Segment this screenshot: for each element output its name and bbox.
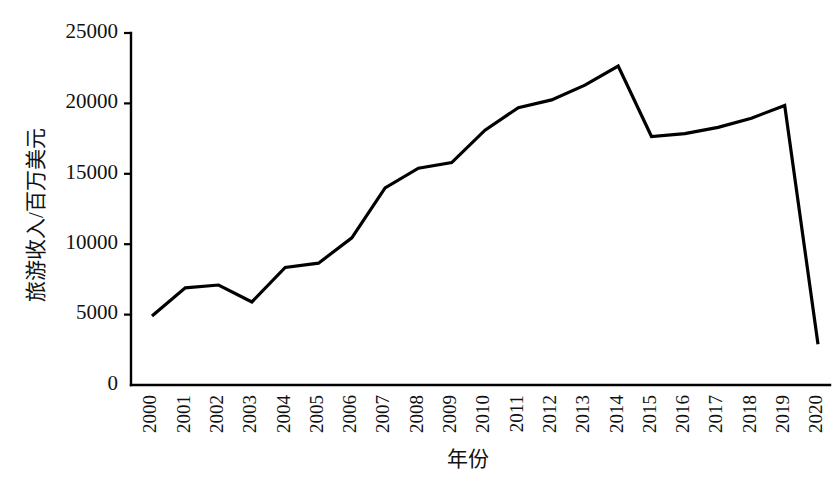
x-axis-tick-label: 2008 bbox=[406, 395, 427, 433]
chart-container: 0500010000150002000025000 20002001200220… bbox=[0, 0, 839, 494]
x-axis-tick-label: 2003 bbox=[239, 395, 260, 433]
x-axis-tick-label: 2001 bbox=[173, 395, 194, 433]
x-axis-tick-label: 2012 bbox=[539, 395, 560, 433]
y-axis-tick-label: 5000 bbox=[76, 300, 118, 324]
x-axis-tick-label: 2007 bbox=[372, 395, 393, 433]
x-axis-tick-label: 2006 bbox=[339, 395, 360, 433]
x-axis-tick-label: 2020 bbox=[805, 395, 826, 433]
y-axis-tick-label: 0 bbox=[108, 371, 119, 395]
x-axis-tick-label: 2010 bbox=[472, 395, 493, 433]
x-axis-tick-label: 2017 bbox=[705, 395, 726, 433]
x-axis-tick-label: 2019 bbox=[772, 395, 793, 433]
x-axis-tick-label: 2018 bbox=[739, 395, 760, 433]
x-axis-title: 年份 bbox=[447, 447, 489, 471]
line-chart: 0500010000150002000025000 20002001200220… bbox=[0, 0, 839, 494]
x-axis-tick-label: 2000 bbox=[139, 395, 160, 433]
x-axis-tick-label: 2016 bbox=[672, 395, 693, 433]
y-axis-tick-label: 15000 bbox=[66, 160, 119, 184]
x-axis-tick-label: 2015 bbox=[639, 395, 660, 433]
x-axis-tick-label: 2004 bbox=[273, 395, 294, 434]
x-axis-tick-label: 2014 bbox=[606, 395, 627, 434]
x-axis-tick-label: 2011 bbox=[506, 395, 527, 432]
x-axis-tick-label: 2013 bbox=[572, 395, 593, 433]
x-axis-tick-label: 2005 bbox=[306, 395, 327, 433]
y-axis-tick-label: 25000 bbox=[66, 19, 119, 43]
y-axis-title: 旅游收入/百万美元 bbox=[24, 128, 48, 302]
y-axis-tick-label: 10000 bbox=[66, 230, 119, 254]
x-axis-tick-label: 2009 bbox=[439, 395, 460, 433]
data-series-line bbox=[152, 66, 818, 344]
x-axis-tick-label: 2002 bbox=[206, 395, 227, 433]
y-axis-tick-labels: 0500010000150002000025000 bbox=[66, 19, 119, 395]
x-axis-tick-labels: 2000200120022003200420052006200720082009… bbox=[139, 395, 826, 434]
y-axis-tick-label: 20000 bbox=[66, 89, 119, 113]
